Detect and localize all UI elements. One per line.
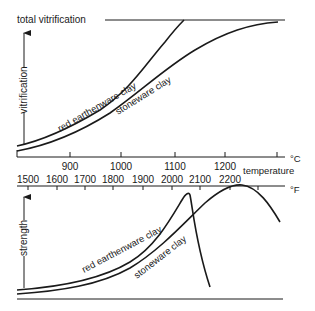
fahrenheit-tick-1600: 1600 xyxy=(46,174,69,185)
celsius-ticks xyxy=(70,152,277,157)
total-vitrification-label: total vitrification xyxy=(17,14,86,25)
strength-axis-label: strength xyxy=(18,220,29,256)
clay-firing-diagram: total vitrification vitrification red ea… xyxy=(0,0,315,311)
fahrenheit-tick-1500: 1500 xyxy=(17,174,40,185)
celsius-tick-1000: 1000 xyxy=(110,161,133,172)
celsius-unit: °C xyxy=(290,153,301,164)
fahrenheit-tick-1800: 1800 xyxy=(102,174,125,185)
temperature-label: temperature xyxy=(243,165,294,176)
celsius-tick-1200: 1200 xyxy=(214,161,237,172)
fahrenheit-tick-2200: 2200 xyxy=(219,174,242,185)
celsius-tick-900: 900 xyxy=(62,161,79,172)
fahrenheit-tick-2100: 2100 xyxy=(189,174,212,185)
fahrenheit-tick-2000: 2000 xyxy=(161,174,184,185)
fahrenheit-tick-1700: 1700 xyxy=(74,174,97,185)
fahrenheit-unit: °F xyxy=(290,184,300,195)
fahrenheit-tick-1900: 1900 xyxy=(132,174,155,185)
vitrification-axis-label: vitrification xyxy=(18,66,29,113)
celsius-tick-1100: 1100 xyxy=(164,161,186,172)
